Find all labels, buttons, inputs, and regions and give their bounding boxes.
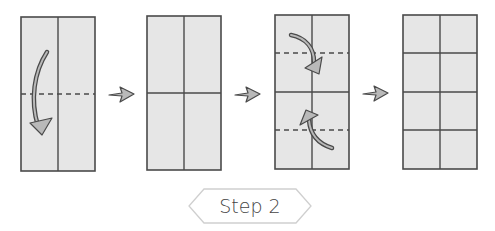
panel-4 <box>403 15 477 169</box>
panel-1 <box>21 17 95 171</box>
step-label: Step 2 <box>219 195 280 217</box>
step-badge: Step 2 <box>189 189 311 223</box>
panel-3 <box>275 15 349 169</box>
next-step-arrow-icon <box>363 86 388 101</box>
next-step-arrow-icon <box>109 87 134 102</box>
panel-2 <box>147 16 221 170</box>
next-step-arrow-icon <box>235 87 260 102</box>
origami-diagram: Step 2 <box>0 0 495 231</box>
